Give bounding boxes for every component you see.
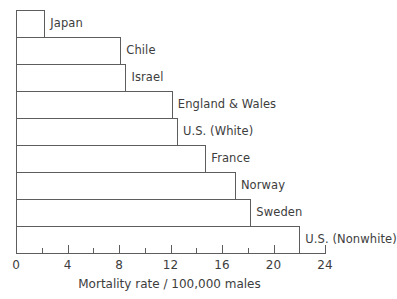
x-axis-tick-label: 8 <box>99 259 139 271</box>
x-axis-tick <box>299 248 300 253</box>
x-axis-tick-label: 20 <box>254 259 294 271</box>
bar <box>16 145 206 173</box>
bar <box>16 199 251 227</box>
x-axis-tick <box>274 245 275 253</box>
x-axis-tick-label: 16 <box>202 259 242 271</box>
x-axis-tick <box>68 245 69 253</box>
x-axis-line <box>16 253 326 254</box>
bar-label: Japan <box>50 18 83 30</box>
bar-label: Sweden <box>256 207 302 219</box>
bar-label: U.S. (Nonwhite) <box>305 234 397 246</box>
x-axis-tick <box>42 248 43 253</box>
x-axis-tick <box>325 245 326 253</box>
bar <box>16 172 236 200</box>
x-axis-tick-label: 24 <box>305 259 345 271</box>
bar <box>16 91 173 119</box>
x-axis-tick-label: 0 <box>0 259 36 271</box>
x-axis-tick <box>119 245 120 253</box>
bar <box>16 118 178 146</box>
x-axis-tick <box>196 248 197 253</box>
x-axis-title: Mortality rate / 100,000 males <box>0 278 367 290</box>
bar <box>16 226 300 254</box>
bar-label: France <box>211 153 250 165</box>
x-axis-tick <box>145 248 146 253</box>
x-axis-tick <box>248 248 249 253</box>
bar-label: Israel <box>131 72 163 84</box>
x-axis-tick <box>222 245 223 253</box>
x-axis-tick-label: 4 <box>48 259 88 271</box>
bar <box>16 10 45 38</box>
bar-label: England & Wales <box>178 99 276 111</box>
x-axis-tick-label: 12 <box>151 259 191 271</box>
x-axis-tick <box>16 245 17 253</box>
bar <box>16 37 121 65</box>
bar-label: Norway <box>241 180 285 192</box>
bar-label: U.S. (White) <box>183 126 253 138</box>
x-axis-tick <box>93 248 94 253</box>
bar-label: Chile <box>126 45 155 57</box>
x-axis-tick <box>171 245 172 253</box>
bar <box>16 64 126 92</box>
